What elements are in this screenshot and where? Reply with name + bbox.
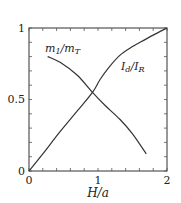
- y-tick-0: 0: [18, 165, 25, 178]
- x-tick-0: 0: [26, 174, 33, 187]
- x-axis-label: H/a: [86, 186, 109, 200]
- y-tick-0.5: 0.5: [8, 93, 26, 106]
- series-label-m1-mT: m1/mT: [45, 42, 81, 56]
- x-tick-2: 2: [164, 174, 171, 187]
- y-tick-1: 1: [18, 22, 25, 35]
- chart: 0 0.5 1 0 1 2 H/a m1/mT Id/IR: [0, 0, 181, 203]
- series-label-Id-IR: Id/IR: [120, 60, 145, 74]
